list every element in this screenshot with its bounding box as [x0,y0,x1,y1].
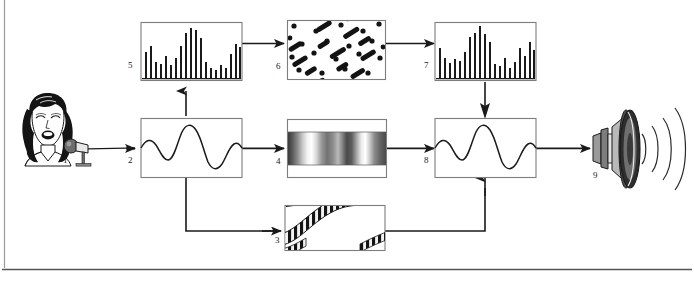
microphone-with-singer: 1 [22,93,135,166]
label-7: 7 [424,60,429,70]
label-4: 4 [276,156,281,166]
label-5: 5 [128,60,133,70]
output-waveform-box: 8 [424,119,536,178]
label-6: 6 [276,61,281,71]
label-8: 8 [424,155,429,165]
dot-dash-code-box: 6 [276,5,387,103]
spectrogram-band-box: 4 [276,120,387,178]
edge-groove-to-output-waveform [385,178,485,231]
edge-spectrum-to-output-waveform [480,82,490,119]
label-3: 3 [275,235,280,245]
groove-recording-box: 3 [275,186,392,258]
edge-waveform-to-groove [186,178,281,231]
figure-canvas: 1 [0,0,694,281]
label-2: 2 [128,155,133,165]
input-waveform-box: 2 [128,119,242,178]
input-spectrum-box: 5 [128,23,242,81]
label-9: 9 [593,170,598,180]
output-spectrum-box: 7 [424,23,536,81]
label-1: 1 [63,155,68,165]
loudspeaker: 9 [593,108,686,190]
